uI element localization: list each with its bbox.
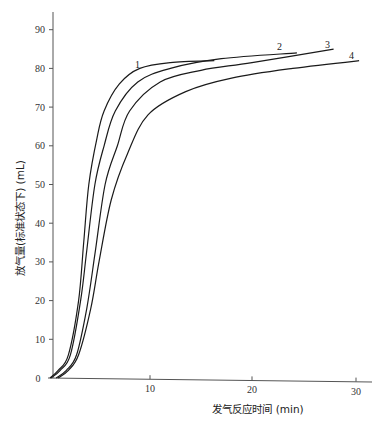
curve-label-4: 4	[349, 50, 354, 61]
curve-label-2: 2	[277, 41, 282, 52]
curves	[50, 49, 359, 378]
y-tick-label: 50	[35, 179, 45, 190]
curve-label-1: 1	[135, 59, 140, 70]
y-tick-label: 10	[35, 334, 45, 345]
y-tick-label: 80	[35, 63, 45, 74]
x-axis-title: 发气反应时间 (min)	[212, 403, 303, 415]
y-tick-label: 30	[35, 256, 45, 267]
curve-3	[56, 49, 333, 378]
gas-evolution-chart: 102030405060708090 102030 0 1 2 3 4 发气反应…	[0, 0, 388, 425]
curve-2	[51, 53, 297, 378]
y-tick-label: 60	[35, 140, 45, 151]
origin-label: 0	[36, 373, 41, 384]
y-tick-label: 20	[35, 295, 45, 306]
x-axis-ticks: 102030	[145, 375, 361, 396]
y-tick-label: 70	[35, 102, 45, 113]
curve-label-3: 3	[325, 39, 330, 50]
y-axis-title: 放气量(标准状态下) (mL)	[14, 160, 26, 276]
curve-4	[58, 61, 359, 378]
x-axis	[48, 378, 372, 382]
y-axis-ticks: 102030405060708090	[35, 24, 53, 345]
x-tick-label: 10	[145, 383, 155, 394]
y-tick-label: 90	[35, 24, 45, 35]
y-tick-label: 40	[35, 218, 45, 229]
x-tick-label: 20	[247, 384, 257, 395]
x-tick-label: 30	[351, 386, 361, 397]
